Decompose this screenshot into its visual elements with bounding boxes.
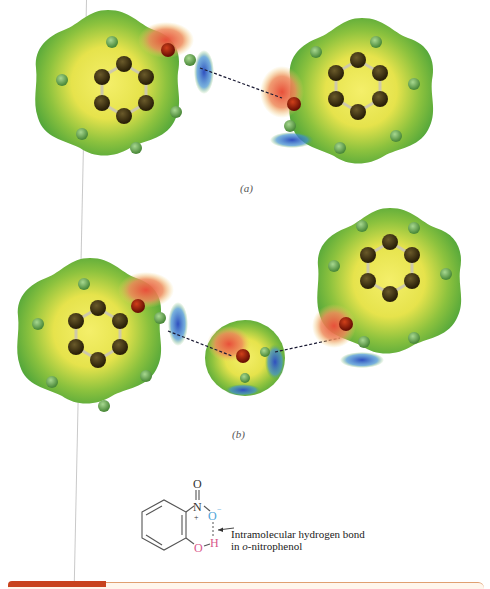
atom-h: H xyxy=(210,536,219,550)
annotation-line-1: Intramolecular hydrogen bond xyxy=(231,528,365,540)
water-b xyxy=(205,320,285,396)
phenol-b-left xyxy=(17,258,188,412)
o-nitrophenol-structure: O N + O − O H xyxy=(130,478,240,568)
hbond-annotation: Intramolecular hydrogen bond in o-nitrop… xyxy=(231,528,365,552)
phenol-b-right xyxy=(312,208,461,368)
charge-plus: + xyxy=(194,513,199,522)
atom-o-top: O xyxy=(193,478,202,491)
caption-a: (a) xyxy=(240,182,253,194)
electrostatic-potential-figure xyxy=(0,0,490,470)
charge-minus: − xyxy=(217,505,222,514)
atom-n: N xyxy=(193,500,202,514)
section-tab-accent xyxy=(8,581,106,587)
phenol-a-left xyxy=(35,10,214,156)
atom-o-hydroxyl: O xyxy=(194,541,203,555)
arrow-head-icon xyxy=(218,528,223,533)
annotation-line-2: in o-nitrophenol xyxy=(231,540,365,552)
phenol-a-right xyxy=(260,18,433,164)
atom-o-minus: O xyxy=(208,509,217,523)
caption-b: (b) xyxy=(232,428,245,440)
